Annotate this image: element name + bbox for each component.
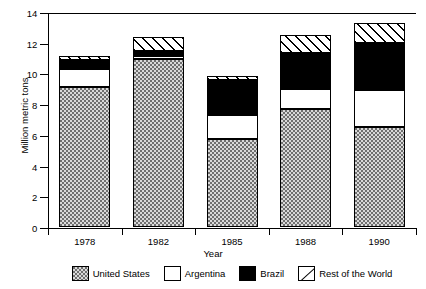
legend-label: Rest of the World [319, 268, 392, 279]
legend-label: United States [93, 268, 150, 279]
black-swatch [239, 266, 256, 281]
bar-segment-rest-of-the-world [133, 37, 184, 51]
x-axis-tick [416, 228, 417, 235]
x-axis-tick-label: 1990 [369, 236, 390, 247]
bar-segment-brazil [59, 60, 110, 68]
legend-label: Brazil [260, 268, 284, 279]
bar-segment-argentina [133, 56, 184, 59]
bar-segment-brazil [354, 43, 405, 91]
bar-segment-united-states [133, 59, 184, 226]
x-axis-tick [195, 228, 196, 235]
bar-group-1982 [133, 13, 184, 228]
x-axis-tick [48, 228, 49, 235]
x-axis-tick-label: 1985 [221, 236, 242, 247]
x-axis-tick [342, 228, 343, 235]
bars-layer [0, 0, 426, 289]
hatch-line-icon [299, 267, 314, 280]
x-axis-tick [269, 228, 270, 235]
bar-segment-rest-of-the-world [59, 56, 110, 61]
bar-segment-argentina [59, 69, 110, 87]
white-swatch [164, 266, 181, 281]
bar-group-1978 [59, 13, 110, 228]
x-axis-tick-label: 1982 [148, 236, 169, 247]
legend-item[interactable]: Argentina [164, 266, 226, 281]
bar-segment-argentina [354, 90, 405, 127]
bar-segment-brazil [280, 53, 331, 89]
bar-segment-rest-of-the-world [354, 23, 405, 43]
bar-group-1985 [207, 13, 258, 228]
legend-item[interactable]: Brazil [239, 266, 284, 281]
legend-label: Argentina [185, 268, 226, 279]
bar-segment-brazil [133, 51, 184, 56]
bar-segment-argentina [280, 89, 331, 110]
bar-segment-united-states [280, 109, 331, 226]
bar-segment-united-states [207, 139, 258, 227]
hatched-swatch [298, 266, 315, 281]
bar-segment-rest-of-the-world [207, 76, 258, 80]
chart-legend: United StatesArgentinaBrazilRest of the … [48, 262, 416, 284]
bar-segment-brazil [207, 80, 258, 115]
legend-item[interactable]: Rest of the World [298, 266, 392, 281]
x-axis-tick-label: 1988 [295, 236, 316, 247]
x-axis-tick [122, 228, 123, 235]
stacked-bar-chart: 02468101214 Million metric tons Year Uni… [0, 0, 426, 289]
x-axis-tick-label: 1978 [74, 236, 95, 247]
x-axis-title: Year [0, 248, 426, 259]
bar-segment-united-states [59, 87, 110, 227]
bar-segment-united-states [354, 127, 405, 227]
bar-segment-argentina [207, 115, 258, 138]
legend-item[interactable]: United States [72, 266, 150, 281]
bar-group-1988 [280, 13, 331, 228]
bar-group-1990 [354, 13, 405, 228]
dotted-gray-swatch [72, 266, 89, 281]
bar-segment-rest-of-the-world [280, 35, 331, 53]
